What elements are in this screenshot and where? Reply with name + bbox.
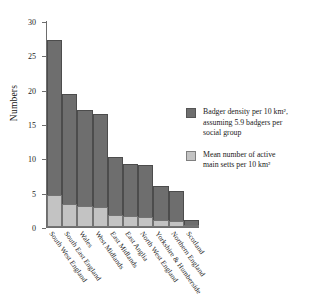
bar-group [62,94,77,227]
y-tick-15: 15 [42,125,46,126]
bar-segment-main-setts [108,215,123,227]
bar-segment-main-setts [153,220,168,227]
legend-label-density-line2: assuming 5.9 badgers per [203,118,322,129]
plot-area: 051015202530 [46,21,199,228]
legend-swatch-density-icon [186,108,196,118]
y-tick-label-20: 20 [28,86,36,95]
bar-group [138,165,153,227]
y-tick-label-25: 25 [28,52,36,61]
y-tick-label-5: 5 [32,189,36,198]
y-tick-label-30: 30 [28,18,36,27]
bar-group [108,157,123,227]
bar-group [93,114,108,227]
bar-series-container [47,21,199,227]
chart-legend: Badger density per 10 km², assuming 5.9 … [186,107,322,182]
y-tick-30: 30 [42,22,46,23]
y-tick-10: 10 [42,159,46,160]
y-tick-25: 25 [42,56,46,57]
bar-group [123,164,138,227]
bar-group [184,220,199,227]
legend-label-setts-line1: Mean number of active [203,150,322,161]
bar-group [153,186,168,227]
legend-item-badger-density: Badger density per 10 km², assuming 5.9 … [186,107,322,139]
y-tick-label-0: 0 [32,224,36,233]
y-tick-label-10: 10 [28,155,36,164]
y-tick-label-15: 15 [28,121,36,130]
bar-segment-main-setts [62,204,77,227]
legend-swatch-setts-icon [186,151,196,161]
bar-segment-main-setts [93,207,108,227]
legend-label-setts-line2: main setts per 10 km² [203,160,322,171]
bar-segment-main-setts [138,217,153,227]
bar-segment-main-setts [169,221,184,227]
y-tick-0: 0 [42,228,46,229]
bar-segment-main-setts [184,225,199,227]
bar-segment-main-setts [123,216,138,227]
y-axis-label: Numbers [9,63,19,143]
badger-density-bar-chart: Numbers 051015202530 South West EnglandS… [0,0,325,307]
legend-label-density-line3: social group [203,128,322,139]
y-tick-20: 20 [42,91,46,92]
legend-label-density-line1: Badger density per 10 km², [203,107,322,118]
bar-segment-main-setts [77,206,92,227]
x-axis-line [46,227,199,228]
x-axis-tick-labels: South West EnglandSouth East EnglandWale… [46,230,246,307]
bar-group [77,110,92,227]
y-tick-5: 5 [42,194,46,195]
bar-segment-main-setts [47,195,62,227]
bar-group [47,40,62,227]
legend-item-main-setts: Mean number of active main setts per 10 … [186,150,322,171]
bar-group [169,191,184,227]
